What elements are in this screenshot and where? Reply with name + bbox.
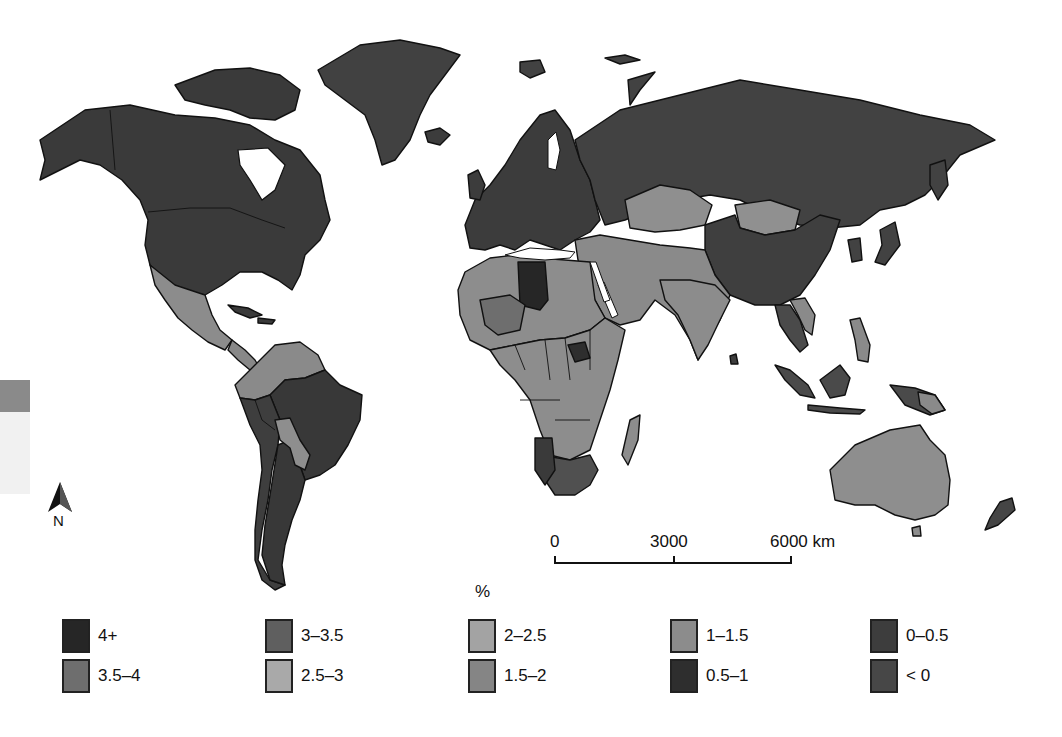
region-north-america	[40, 105, 330, 295]
legend-swatch	[870, 619, 898, 653]
region-kamchatka	[930, 160, 948, 200]
region-philippines	[850, 318, 870, 362]
legend-swatch	[62, 619, 90, 653]
legend-swatch	[468, 659, 496, 693]
legend-swatch	[265, 659, 293, 693]
region-arctic-islands	[175, 68, 300, 120]
scale-tick-0: 0	[550, 532, 559, 552]
region-japan	[875, 222, 900, 265]
region-franz-josef	[605, 55, 640, 64]
region-sri-lanka	[730, 354, 738, 364]
legend-label: 1.5–2	[504, 666, 547, 686]
legend-item-3-5-4: 3.5–4	[62, 658, 141, 694]
region-new-zealand	[985, 498, 1015, 530]
legend-item-3-3-5: 3–3.5	[265, 618, 344, 654]
region-australia	[830, 425, 950, 520]
legend-item-4-plus: 4+	[62, 618, 117, 654]
legend-label: < 0	[906, 666, 930, 686]
scale-bar-mid-tick	[673, 556, 675, 564]
region-korea	[848, 238, 862, 262]
legend-item-0-0-5: 0–0.5	[870, 618, 949, 654]
legend-label: 0.5–1	[706, 666, 749, 686]
legend-label: 2–2.5	[504, 626, 547, 646]
region-borneo	[820, 365, 850, 398]
legend-label: 2.5–3	[301, 666, 344, 686]
legend-item-0-5-1: 0.5–1	[670, 658, 749, 694]
region-iceland	[425, 128, 450, 145]
legend-item-below-0: < 0	[870, 658, 930, 694]
side-tab-dark	[0, 380, 30, 412]
legend-item-2-2-5: 2–2.5	[468, 618, 547, 654]
legend-label: 3–3.5	[301, 626, 344, 646]
region-sumatra	[775, 365, 815, 398]
legend-label: 4+	[98, 626, 117, 646]
legend-label: 1–1.5	[706, 626, 749, 646]
scale-bar: 0 3000 6000 km	[554, 532, 794, 572]
legend-label: 3.5–4	[98, 666, 141, 686]
region-novaya-zemlya	[628, 72, 655, 105]
scale-tick-3000: 3000	[650, 532, 688, 552]
legend-swatch	[468, 619, 496, 653]
north-label: N	[53, 512, 64, 529]
scale-tick-6000: 6000 km	[770, 532, 835, 552]
legend: 4+ 3.5–4 3–3.5 2.5–3 2–2.5 1.5–2 1–1.5 0…	[62, 618, 1022, 698]
region-svalbard	[520, 60, 545, 78]
legend-label: 0–0.5	[906, 626, 949, 646]
legend-title: %	[475, 582, 490, 602]
legend-swatch	[265, 619, 293, 653]
legend-item-1-5-2: 1.5–2	[468, 658, 547, 694]
region-java	[808, 405, 865, 414]
region-europe	[465, 110, 600, 250]
legend-swatch	[670, 659, 698, 693]
region-caribbean	[228, 305, 262, 318]
legend-swatch	[62, 659, 90, 693]
region-caribbean-2	[258, 318, 275, 324]
region-madagascar	[622, 415, 640, 465]
legend-item-2-5-3: 2.5–3	[265, 658, 344, 694]
region-tasmania	[912, 526, 921, 536]
region-greenland	[318, 40, 460, 165]
legend-swatch	[870, 659, 898, 693]
region-india	[660, 280, 730, 360]
legend-swatch	[670, 619, 698, 653]
side-tab-light	[0, 412, 30, 494]
legend-item-1-1-5: 1–1.5	[670, 618, 749, 654]
